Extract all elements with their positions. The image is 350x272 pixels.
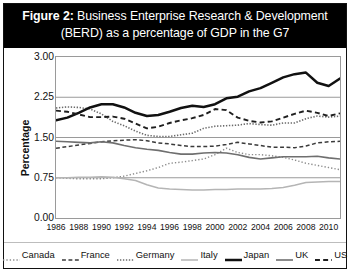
series-line-uk	[56, 141, 340, 159]
plot-area	[55, 56, 341, 219]
legend-item-us[interactable]: US	[315, 249, 347, 260]
series-line-japan	[56, 73, 340, 121]
legend-swatch-italy	[181, 250, 198, 258]
legend-swatch-japan	[225, 250, 242, 258]
x-axis-tick-label: 1990	[92, 222, 111, 232]
x-axis-tick-label: 2004	[251, 222, 270, 232]
chart-panel: Percentage 0.000.751.502.253.00 19861988…	[4, 50, 346, 266]
legend-label: France	[81, 249, 110, 260]
legend-item-france[interactable]: France	[62, 249, 110, 260]
y-axis-tick-label: 2.25	[14, 92, 54, 102]
x-axis-tick-label: 2000	[205, 222, 224, 232]
x-axis-tick-label: 2010	[319, 222, 338, 232]
figure-title-rest: Business Enterprise Research & Developme…	[74, 9, 328, 23]
legend-label: Italy	[200, 249, 217, 260]
x-axis-tick-label: 1992	[115, 222, 134, 232]
x-axis-tick-label: 1986	[46, 222, 65, 232]
chart-lines	[56, 57, 340, 218]
series-line-us	[56, 109, 340, 128]
figure-title-banner: Figure 2: Business Enterprise Research &…	[4, 4, 346, 48]
legend-item-japan[interactable]: Japan	[225, 249, 270, 260]
x-axis-tick-label: 1996	[160, 222, 179, 232]
legend-swatch-canada	[3, 250, 20, 258]
y-axis-tick-labels: 0.000.751.502.253.00	[14, 50, 54, 230]
legend-label: UK	[295, 249, 308, 260]
legend-item-uk[interactable]: UK	[276, 249, 308, 260]
legend-label: Canada	[22, 249, 55, 260]
figure-label: Figure 2:	[22, 9, 73, 23]
legend-label: US	[334, 249, 347, 260]
figure-title-line-1: Figure 2: Business Enterprise Research &…	[12, 8, 338, 25]
legend-item-canada[interactable]: Canada	[3, 249, 55, 260]
x-axis-tick-labels: 1986198819901992199419961998200020022004…	[55, 222, 341, 236]
y-axis-tick-label: 1.50	[14, 133, 54, 143]
legend-swatch-germany	[117, 250, 134, 258]
legend-swatch-uk	[276, 250, 293, 258]
chart-legend: CanadaFranceGermanyItalyJapanUKUS	[4, 242, 346, 265]
x-axis-tick-label: 2008	[296, 222, 315, 232]
x-axis-tick-label: 1998	[183, 222, 202, 232]
figure-root: Figure 2: Business Enterprise Research &…	[0, 0, 350, 272]
legend-label: Japan	[244, 249, 270, 260]
legend-label: Germany	[136, 249, 175, 260]
x-axis-tick-label: 1994	[137, 222, 156, 232]
x-axis-tick-label: 2006	[274, 222, 293, 232]
y-axis-tick-label: 0.75	[14, 173, 54, 183]
x-axis-tick-label: 2002	[228, 222, 247, 232]
figure-title-line-2: (BERD) as a percentage of GDP in the G7	[12, 25, 338, 42]
y-axis-tick-label: 3.00	[14, 52, 54, 62]
series-line-germany	[56, 107, 340, 137]
legend-item-italy[interactable]: Italy	[181, 249, 217, 260]
series-line-italy	[56, 177, 340, 190]
legend-item-germany[interactable]: Germany	[117, 249, 175, 260]
legend-swatch-france	[62, 250, 79, 258]
legend-swatch-us	[315, 250, 332, 258]
series-line-france	[56, 140, 340, 149]
x-axis-tick-label: 1988	[69, 222, 88, 232]
